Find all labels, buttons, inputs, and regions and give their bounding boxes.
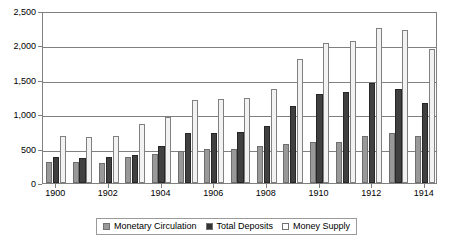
legend-item: Total Deposits bbox=[206, 222, 274, 231]
y-axis-tick-label: 0 bbox=[0, 180, 36, 189]
bar bbox=[415, 136, 421, 183]
bar bbox=[125, 157, 131, 183]
x-axis-tick-mark bbox=[55, 184, 56, 188]
bar-group bbox=[254, 13, 280, 183]
bar-group bbox=[280, 13, 306, 183]
x-axis-tick-label: 1908 bbox=[256, 188, 276, 198]
y-axis-tick-label: 1,000 bbox=[0, 111, 36, 120]
bar bbox=[283, 144, 289, 183]
x-axis-tick-mark bbox=[161, 184, 162, 188]
bar bbox=[395, 89, 401, 183]
plot-area bbox=[42, 12, 437, 184]
bar bbox=[264, 126, 270, 183]
legend-item: Monetary Circulation bbox=[103, 222, 197, 231]
x-axis-tick-mark bbox=[371, 184, 372, 188]
x-axis-tick-label: 1904 bbox=[150, 188, 170, 198]
bar bbox=[158, 146, 164, 183]
legend-swatch-icon bbox=[206, 223, 213, 230]
bar bbox=[429, 49, 435, 183]
y-axis-tick-label: 2,000 bbox=[0, 42, 36, 51]
bar bbox=[343, 92, 349, 184]
bar bbox=[139, 124, 145, 183]
bar bbox=[316, 94, 322, 183]
bar bbox=[46, 162, 52, 183]
bar bbox=[297, 59, 303, 183]
y-axis-tick-label: 1,500 bbox=[0, 76, 36, 85]
x-axis-tick-label: 1910 bbox=[308, 188, 328, 198]
legend-swatch-icon bbox=[103, 223, 110, 230]
bar bbox=[152, 154, 158, 183]
bar bbox=[192, 100, 198, 183]
bar bbox=[422, 103, 428, 183]
x-axis-tick-mark bbox=[108, 184, 109, 188]
bar-group bbox=[227, 13, 253, 183]
x-axis: 19001902190419061908191019121914 bbox=[42, 188, 437, 202]
bar bbox=[376, 28, 382, 183]
bar-chart: 05001,0001,5002,0002,500 190019021904190… bbox=[0, 0, 461, 241]
bar bbox=[290, 106, 296, 183]
legend-label: Money Supply bbox=[293, 222, 350, 231]
bar bbox=[323, 43, 329, 183]
bar bbox=[218, 99, 224, 183]
x-axis-tick-label: 1914 bbox=[414, 188, 434, 198]
x-axis-tick-mark bbox=[266, 184, 267, 188]
bar bbox=[271, 89, 277, 183]
bar bbox=[79, 158, 85, 183]
bar-group bbox=[359, 13, 385, 183]
bar bbox=[336, 142, 342, 183]
bar bbox=[86, 137, 92, 183]
y-axis: 05001,0001,5002,0002,500 bbox=[0, 0, 38, 241]
bar-group bbox=[412, 13, 438, 183]
bar bbox=[165, 117, 171, 183]
bar bbox=[389, 133, 395, 183]
x-axis-tick-mark bbox=[213, 184, 214, 188]
x-axis-tick-mark bbox=[424, 184, 425, 188]
bar-group bbox=[122, 13, 148, 183]
bar-group bbox=[43, 13, 69, 183]
legend-label: Total Deposits bbox=[217, 222, 274, 231]
bar bbox=[369, 83, 375, 183]
bar bbox=[237, 132, 243, 183]
x-axis-tick-label: 1912 bbox=[361, 188, 381, 198]
bar bbox=[106, 157, 112, 183]
bar bbox=[350, 41, 356, 183]
bar bbox=[231, 149, 237, 183]
bar-group bbox=[148, 13, 174, 183]
chart-legend: Monetary CirculationTotal DepositsMoney … bbox=[96, 218, 357, 235]
bar-group bbox=[175, 13, 201, 183]
bar bbox=[204, 149, 210, 183]
bar-group bbox=[96, 13, 122, 183]
bar-group bbox=[69, 13, 95, 183]
bar bbox=[402, 30, 408, 183]
bar bbox=[185, 133, 191, 183]
bar bbox=[244, 98, 250, 183]
bar bbox=[73, 162, 79, 183]
y-axis-tick-label: 2,500 bbox=[0, 8, 36, 17]
x-axis-tick-mark bbox=[319, 184, 320, 188]
x-axis-tick-label: 1900 bbox=[45, 188, 65, 198]
bar bbox=[60, 136, 66, 183]
bar bbox=[53, 157, 59, 183]
bar-group bbox=[333, 13, 359, 183]
x-axis-tick-label: 1906 bbox=[203, 188, 223, 198]
bar bbox=[362, 136, 368, 183]
bar bbox=[178, 151, 184, 183]
bar-group bbox=[201, 13, 227, 183]
bar-group bbox=[306, 13, 332, 183]
bar bbox=[257, 146, 263, 183]
bar bbox=[310, 142, 316, 183]
bar bbox=[132, 155, 138, 183]
bar-group bbox=[385, 13, 411, 183]
legend-label: Monetary Circulation bbox=[114, 222, 197, 231]
y-axis-tick-mark bbox=[38, 184, 42, 185]
legend-swatch-icon bbox=[282, 223, 289, 230]
y-axis-tick-label: 500 bbox=[0, 145, 36, 154]
bar bbox=[113, 136, 119, 183]
legend-item: Money Supply bbox=[282, 222, 350, 231]
bar bbox=[99, 163, 105, 183]
bar bbox=[211, 133, 217, 183]
x-axis-tick-label: 1902 bbox=[98, 188, 118, 198]
